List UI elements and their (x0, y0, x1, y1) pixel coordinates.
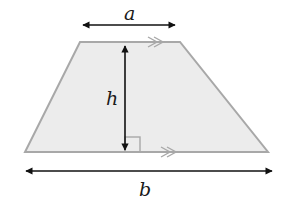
label-h: h (106, 87, 118, 109)
label-a: a (124, 2, 135, 24)
trapezium-shape (25, 42, 268, 152)
label-b: b (139, 178, 151, 198)
trapezium-diagram: a h b (0, 0, 291, 198)
